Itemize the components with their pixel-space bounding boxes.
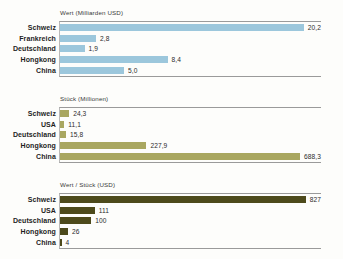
category-label: Hongkong xyxy=(21,142,56,149)
category-label: China xyxy=(36,153,56,160)
bar-value-label: 26 xyxy=(72,228,80,235)
bar xyxy=(60,196,306,203)
bar xyxy=(60,217,91,224)
bar xyxy=(60,142,146,149)
category-label: Schweiz xyxy=(28,196,56,203)
bar-row: China 5,0 xyxy=(60,65,321,76)
bar-value-label: 827 xyxy=(310,196,321,203)
bar-value-label: 100 xyxy=(95,217,106,224)
plot-area: Schweiz 827 USA 111 Deutschland 100 Hong… xyxy=(59,193,321,249)
bar-row: China 688,3 xyxy=(60,151,321,162)
category-label: Schweiz xyxy=(28,110,56,117)
category-label: China xyxy=(36,67,56,74)
category-label: Deutschland xyxy=(13,217,56,224)
bar-value-label: 688,3 xyxy=(304,153,321,160)
bar-row: Hongkong 26 xyxy=(60,226,321,237)
plot-area: Schweiz 20,2 Frankreich 2,8 Deutschland … xyxy=(59,21,321,77)
chart-panel-value: Wert (Milliarden USD) Schweiz 20,2 Frank… xyxy=(0,0,343,86)
category-label: Deutschland xyxy=(13,45,56,52)
bar-value-label: 24,3 xyxy=(73,110,86,117)
bar-row: Hongkong 227,9 xyxy=(60,140,321,151)
bar-row: USA 111 xyxy=(60,205,321,216)
bar xyxy=(60,131,66,138)
bar xyxy=(60,35,96,42)
bar-value-label: 15,8 xyxy=(70,131,83,138)
category-label: Deutschland xyxy=(13,131,56,138)
bar-row: Schweiz 20,2 xyxy=(60,22,321,33)
bar-value-label: 111 xyxy=(99,207,109,214)
bar-row: Schweiz 827 xyxy=(60,194,321,205)
bar-value-label: 11,1 xyxy=(68,121,81,128)
bar-rows: Schweiz 20,2 Frankreich 2,8 Deutschland … xyxy=(60,22,321,76)
bar xyxy=(60,45,85,52)
bar-value-label: 20,2 xyxy=(308,24,321,31)
bar-row: Deutschland 1,9 xyxy=(60,44,321,55)
chart-title: Wert / Stück (USD) xyxy=(60,181,115,188)
bar xyxy=(60,228,68,235)
bar xyxy=(60,239,62,246)
chart-panel-value-per-unit: Wert / Stück (USD) Schweiz 827 USA 111 D… xyxy=(0,172,343,259)
bar-row: USA 11,1 xyxy=(60,119,321,130)
bar xyxy=(60,110,69,117)
chart-title: Wert (Milliarden USD) xyxy=(60,9,123,16)
chart-title: Stück (Millionen) xyxy=(60,95,108,102)
bar-rows: Schweiz 24,3 USA 11,1 Deutschland 15,8 H… xyxy=(60,108,321,162)
bar-row: Frankreich 2,8 xyxy=(60,33,321,44)
bar xyxy=(60,24,304,31)
bar-value-label: 8,4 xyxy=(172,56,181,63)
bar-value-label: 1,9 xyxy=(89,45,98,52)
bar-row: Deutschland 15,8 xyxy=(60,130,321,141)
bar-row: Hongkong 8,4 xyxy=(60,54,321,65)
category-label: Hongkong xyxy=(21,56,56,63)
bar xyxy=(60,207,95,214)
bar-value-label: 5,0 xyxy=(128,67,137,74)
chart-panel-units: Stück (Millionen) Schweiz 24,3 USA 11,1 … xyxy=(0,86,343,172)
category-label: USA xyxy=(41,121,56,128)
category-label: Frankreich xyxy=(19,35,56,42)
bar xyxy=(60,56,168,63)
bar-row: Schweiz 24,3 xyxy=(60,108,321,119)
bar-value-label: 4 xyxy=(66,239,70,246)
bar-row: Deutschland 100 xyxy=(60,216,321,227)
bar xyxy=(60,121,64,128)
category-label: China xyxy=(36,239,56,246)
bar-rows: Schweiz 827 USA 111 Deutschland 100 Hong… xyxy=(60,194,321,248)
bar-row: China 4 xyxy=(60,237,321,248)
bar-value-label: 2,8 xyxy=(100,35,109,42)
bar xyxy=(60,67,124,74)
category-label: USA xyxy=(41,207,56,214)
plot-area: Schweiz 24,3 USA 11,1 Deutschland 15,8 H… xyxy=(59,107,321,163)
category-label: Hongkong xyxy=(21,228,56,235)
bar-value-label: 227,9 xyxy=(150,142,167,149)
bar xyxy=(60,153,300,160)
category-label: Schweiz xyxy=(28,24,56,31)
